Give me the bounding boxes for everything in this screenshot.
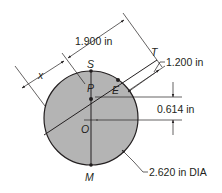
point-M-dot: [89, 163, 93, 167]
label-diameter: 2.620 in DIA: [149, 166, 207, 178]
dimension-1200-line: [128, 70, 159, 92]
label-S: S: [87, 58, 94, 70]
extension-line-T: [123, 13, 162, 67]
label-O: O: [81, 123, 89, 135]
label-0614: 0.614 in: [157, 103, 195, 115]
leader-diameter: [122, 150, 134, 162]
dimension-diagram: S P E O M T x 1.900 in 1.200 in 0.614 in…: [0, 0, 222, 193]
label-1200: 1.200 in: [166, 56, 204, 68]
label-P: P: [87, 82, 94, 94]
label-1900: 1.900 in: [75, 35, 113, 47]
leader-diameter-tail: [134, 162, 143, 172]
label-x: x: [37, 69, 44, 81]
point-E-dot: [116, 78, 120, 82]
label-M: M: [85, 171, 94, 183]
label-T: T: [151, 46, 159, 58]
label-E: E: [112, 84, 120, 96]
point-P-dot: [89, 97, 93, 101]
